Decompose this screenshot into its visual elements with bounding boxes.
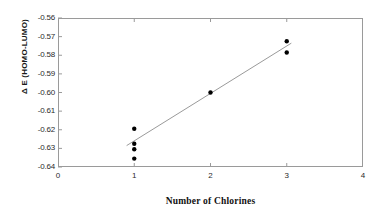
data-point	[132, 156, 136, 160]
plot-graphics	[0, 0, 383, 223]
trend-line	[127, 43, 292, 145]
data-point	[132, 127, 136, 131]
x-axis-tick-label: 3	[277, 171, 297, 180]
data-point	[132, 147, 136, 151]
x-axis-title: Number of Chlorines	[58, 196, 363, 206]
x-axis-tick-label: 2	[201, 171, 221, 180]
x-axis-tick-label: 0	[48, 171, 68, 180]
chart-container: Δ E (HOMO-LUMO) -0.64-0.63-0.62-0.61-0.6…	[0, 0, 383, 223]
data-point	[285, 50, 289, 54]
data-series	[127, 39, 292, 161]
x-axis-tick-label: 4	[353, 171, 373, 180]
data-point	[132, 142, 136, 146]
x-axis-tick-label: 1	[124, 171, 144, 180]
data-point	[208, 90, 212, 94]
axis-ticks	[58, 18, 287, 167]
data-point	[285, 39, 289, 43]
